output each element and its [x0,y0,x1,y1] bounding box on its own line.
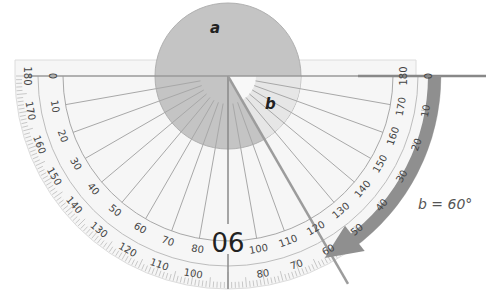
protractor-svg: 1800170101602015030140401305012060110701… [0,0,486,304]
outer-scale-label: 10 [419,104,432,118]
inner-scale-label: 180 [398,66,409,85]
angle-b-annotation: b = 60° [418,196,472,212]
angle-a-label: a [210,19,220,37]
inner-scale-label: 0 [47,73,58,79]
center-90-label: 90 [211,226,244,256]
angle-b-label: b [265,95,276,113]
outer-scale-label: 80 [256,267,270,280]
outer-scale-label: 180 [22,66,33,85]
inner-scale-label: 10 [49,99,62,113]
outer-scale-label: 0 [423,73,434,79]
inner-scale-label: 80 [190,242,204,255]
protractor-diagram: 1800170101602015030140401305012060110701… [0,0,486,304]
